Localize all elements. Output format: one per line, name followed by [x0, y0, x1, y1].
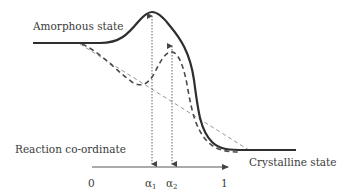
- amorphous-state-label: Amorphous state: [33, 20, 123, 32]
- alpha1-subscript: 1: [152, 183, 156, 191]
- axis-tick-1: 1: [221, 177, 228, 189]
- axis-tick-alpha2: α2: [166, 177, 178, 191]
- crystalline-state-label: Crystalline state: [249, 156, 337, 168]
- axis-tick-alpha1: α1: [145, 177, 157, 191]
- reaction-coordinate-label: Reaction co-ordinate: [15, 143, 126, 155]
- main-energy-curve: [33, 12, 296, 150]
- axis-tick-0: 0: [88, 177, 95, 189]
- alpha2-subscript: 2: [173, 183, 177, 191]
- alternative-path-curve: [82, 44, 240, 152]
